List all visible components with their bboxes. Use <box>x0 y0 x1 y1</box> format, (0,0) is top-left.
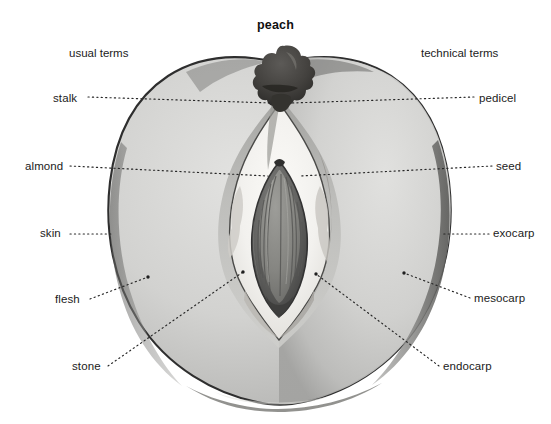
label-exocarp[interactable]: exocarp <box>493 227 535 240</box>
label-endocarp[interactable]: endocarp <box>443 360 492 373</box>
label-stone[interactable]: stone <box>72 360 101 373</box>
label-pedicel[interactable]: pedicel <box>479 92 516 105</box>
label-stalk[interactable]: stalk <box>53 92 77 105</box>
label-skin[interactable]: skin <box>40 227 61 240</box>
label-almond[interactable]: almond <box>25 160 63 173</box>
label-flesh[interactable]: flesh <box>55 293 80 306</box>
label-seed[interactable]: seed <box>496 160 521 173</box>
diagram-canvas: peach usual terms technical terms <box>0 0 551 424</box>
label-mesocarp[interactable]: mesocarp <box>474 292 525 305</box>
